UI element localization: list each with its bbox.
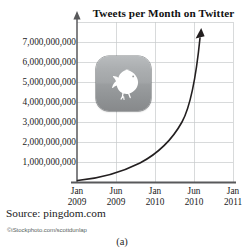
x-tick-month: Jun xyxy=(173,186,215,197)
y-tick-label: 6,000,000,000 xyxy=(0,57,76,67)
twitter-bird-glyph xyxy=(96,56,151,111)
panel-label: (a) xyxy=(0,236,244,247)
y-tick-label: 7,000,000,000 xyxy=(0,37,76,47)
x-tick-label: Jan 2011 xyxy=(212,186,244,208)
x-tick-year: 2010 xyxy=(134,197,176,208)
x-tick-year: 2011 xyxy=(212,197,244,208)
x-tick-year: 2010 xyxy=(173,197,215,208)
source-text: Source: pingdom.com xyxy=(6,207,106,219)
x-tick-month: Jan xyxy=(212,186,244,197)
x-tick-label: Jun 2010 xyxy=(173,186,215,208)
y-tick-label: 2,000,000,000 xyxy=(0,137,76,147)
x-tick-label: Jun 2009 xyxy=(95,186,137,208)
x-tick-month: Jun xyxy=(95,186,137,197)
y-tick-label: 3,000,000,000 xyxy=(0,117,76,127)
y-tick-label: 5,000,000,000 xyxy=(0,77,76,87)
photo-credit-text: ©iStockphoto.com/scottdunlap xyxy=(7,227,87,233)
x-tick-month: Jan xyxy=(134,186,176,197)
y-tick-label: 1,000,000,000 xyxy=(0,157,76,167)
x-tick-label: Jan 2009 xyxy=(56,186,98,208)
twitter-bird-icon xyxy=(96,56,151,111)
y-tick-label: 4,000,000,000 xyxy=(0,97,76,107)
x-tick-label: Jan 2010 xyxy=(134,186,176,208)
x-tick-month: Jan xyxy=(56,186,98,197)
figure-panel: Tweets per Month on Twitter xyxy=(0,0,244,250)
